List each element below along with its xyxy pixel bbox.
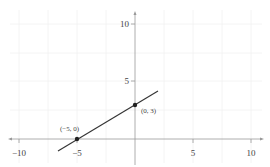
x-axis-arrow-left-icon (8, 138, 12, 141)
y-axis-arrow-up-icon (134, 11, 137, 15)
x-tick-label: −5 (72, 148, 82, 158)
y-tick-label: 10 (120, 19, 130, 29)
point-label: (0, 3) (141, 107, 157, 115)
grid (10, 10, 262, 163)
point-marker (75, 137, 79, 141)
point-label: (−5, 0) (60, 125, 80, 133)
chart-canvas: −10 −5 5 10 10 5 (−5, 0) (0, 3) (0, 0, 270, 167)
y-tick-label: 5 (125, 76, 130, 86)
point-marker (133, 103, 137, 107)
series-line (58, 91, 158, 151)
x-tick-label: 5 (191, 148, 196, 158)
y-axis (131, 13, 135, 165)
x-tick-label: −10 (12, 148, 27, 158)
x-axis-arrow-right-icon (260, 138, 264, 141)
x-tick-label: 10 (247, 148, 257, 158)
